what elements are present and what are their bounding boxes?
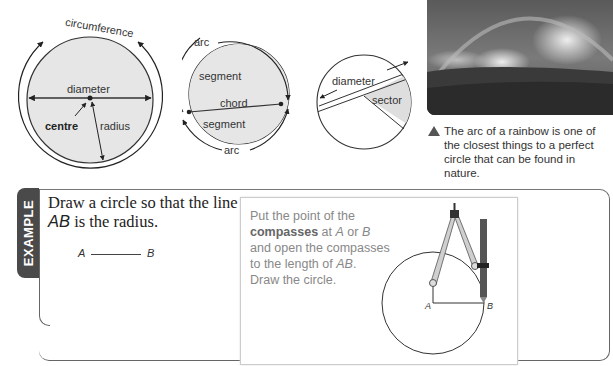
example-tab: EXAMPLE <box>17 188 39 278</box>
line-ab: A B <box>78 247 154 259</box>
compass-diagram: A B <box>380 203 520 363</box>
diagram-point-a: A <box>424 301 431 311</box>
arc-bottom-label: arc <box>224 144 240 156</box>
sector-diagram: diameter sector <box>312 52 417 152</box>
radius-label: radius <box>100 120 130 132</box>
circle-parts-diagram: circumference diameter centre radius <box>15 18 175 176</box>
example-question: Draw a circle so that the line AB is the… <box>48 193 238 231</box>
photo-caption: The arc of a rainbow is one of the close… <box>427 124 613 180</box>
diagram-point-b: B <box>487 301 493 311</box>
chord-segment-diagram: arc segment chord segment arc <box>182 30 297 160</box>
arc-top-label: arc <box>194 36 210 48</box>
instruction-text: Put the point of the compasses at A or B… <box>250 208 390 288</box>
triangle-pointer-icon <box>428 126 440 136</box>
sector-label: sector <box>372 94 402 106</box>
segment-bottom-label: segment <box>203 118 245 130</box>
circumference-label: circumference <box>64 18 134 39</box>
diameter-label: diameter <box>67 83 110 95</box>
chord-label: chord <box>220 97 248 109</box>
diameter-label: diameter <box>332 75 375 87</box>
centre-label: centre <box>45 120 78 132</box>
rainbow-photo <box>427 0 613 115</box>
segment-top-label: segment <box>199 70 241 82</box>
